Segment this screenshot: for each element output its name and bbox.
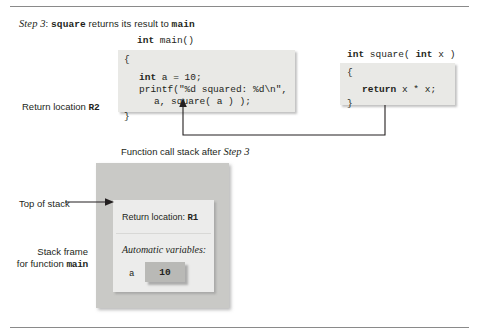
main-code-line-3: a, square( a ) ); xyxy=(154,96,251,108)
square-signature: int square( int x ) xyxy=(347,49,455,60)
top-divider-rule xyxy=(10,6,469,7)
square-body-keyword: return xyxy=(362,84,396,95)
step-caption: Step 3: square returns its result to mai… xyxy=(19,18,195,30)
step-caption-middle: returns its result to xyxy=(86,18,172,29)
square-signature-keyword-2: int xyxy=(415,49,432,60)
stack-frame-label-code: main xyxy=(66,259,88,270)
frame-automatic-variables-row: Automatic variables: xyxy=(122,244,206,255)
stack-frame-main: Return location: R1 Automatic variables:… xyxy=(113,200,214,292)
return-location-r2-label: Return location R2 xyxy=(22,101,99,113)
frame-return-location-row: Return location: R1 xyxy=(122,212,198,223)
return-location-r2-code: R2 xyxy=(89,102,100,113)
main-close-brace: } xyxy=(124,111,130,123)
main-signature-rest: main() xyxy=(154,35,194,46)
stack-title: Function call stack after Step 3 xyxy=(121,146,249,157)
main-code-line-2: printf("%d squared: %d\n", xyxy=(139,84,287,96)
frame-return-location-label: Return location: xyxy=(122,212,188,222)
stack-frame-label-line1: Stack frame xyxy=(0,246,88,257)
call-stack-container: Return location: R1 Automatic variables:… xyxy=(96,163,229,308)
stack-title-step: Step 3 xyxy=(223,146,249,157)
main-line1-rest: a = 10; xyxy=(156,72,202,83)
square-code-body: return x * x; xyxy=(362,84,436,96)
step-caption-target: main xyxy=(172,19,195,30)
main-open-brace: { xyxy=(124,54,130,66)
step-caption-function: square xyxy=(51,19,86,30)
frame-divider xyxy=(116,233,211,234)
square-body-rest: x * x; xyxy=(396,84,436,95)
main-signature: int main() xyxy=(137,35,194,46)
return-location-r2-text: Return location xyxy=(22,101,89,112)
frame-automatic-variables-label: Automatic variables: xyxy=(122,244,206,255)
variable-value-box: 10 xyxy=(145,262,185,282)
step-caption-step: Step 3 xyxy=(19,18,46,29)
square-close-brace: } xyxy=(347,98,353,110)
frame-return-location-value: R1 xyxy=(188,213,198,223)
stack-frame-label-text: for function xyxy=(17,258,67,269)
main-code-line-1: int a = 10; xyxy=(139,72,202,84)
stack-title-prefix: Function call stack after xyxy=(121,146,223,157)
square-signature-rest: x ) xyxy=(433,49,456,60)
square-signature-keyword-1: int xyxy=(347,49,364,60)
main-line1-keyword: int xyxy=(139,72,156,83)
top-of-stack-label: Top of stack xyxy=(19,198,70,209)
square-signature-mid: square( xyxy=(364,49,415,60)
main-signature-keyword: int xyxy=(137,35,154,46)
variable-name-a: a xyxy=(129,269,134,279)
square-open-brace: { xyxy=(347,67,353,79)
bottom-divider-rule xyxy=(10,327,469,328)
stack-frame-label-line2: for function main xyxy=(0,258,88,270)
